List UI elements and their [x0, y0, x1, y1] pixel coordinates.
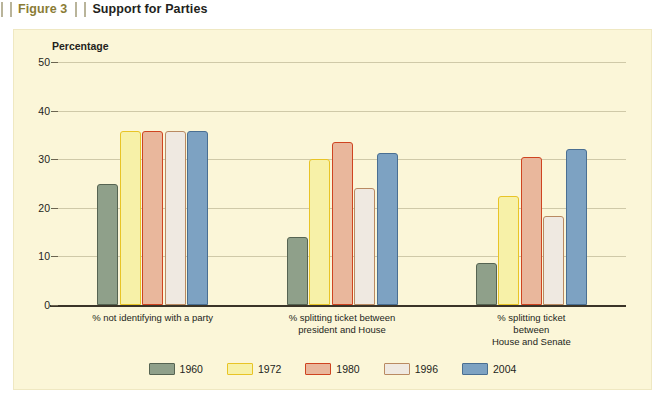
bar-1960-group2: [287, 237, 308, 305]
legend-label-2004: 2004: [493, 363, 516, 375]
bar-1972-group2: [309, 159, 330, 305]
bar-1960-group3: [476, 263, 497, 305]
x-axis-baseline: [50, 305, 626, 307]
y-axis-tick: [51, 159, 58, 160]
legend-item-2004[interactable]: 2004: [462, 363, 516, 375]
gridline: [58, 111, 626, 112]
figure-number: Figure 3: [18, 2, 67, 16]
legend-swatch-1972: [227, 363, 253, 375]
bar-1960-group1: [97, 184, 118, 305]
bar-1980-group2: [332, 142, 353, 305]
bar-1996-group2: [354, 188, 375, 305]
chart-legend: 19601972198019962004: [14, 363, 651, 375]
y-axis-tick: [51, 62, 58, 63]
y-axis-tick: [51, 111, 58, 112]
y-axis-tick-label: 50: [38, 56, 50, 68]
y-axis-tick-label: 0: [44, 299, 50, 311]
y-axis-tick: [51, 256, 58, 257]
legend-label-1996: 1996: [415, 363, 438, 375]
legend-item-1960[interactable]: 1960: [149, 363, 203, 375]
legend-swatch-1996: [384, 363, 410, 375]
x-axis-category-label: % splitting ticket between House and Sen…: [484, 312, 579, 348]
double-rule-icon: [1, 2, 12, 17]
legend-item-1996[interactable]: 1996: [384, 363, 438, 375]
bar-2004-group2: [377, 153, 398, 305]
bar-1972-group1: [120, 131, 141, 305]
figure-title: Support for Parties: [92, 2, 207, 16]
y-axis-tick-label: 30: [38, 153, 50, 165]
chart-panel: Percentage 01020304050% not identifying …: [14, 30, 651, 389]
y-axis-tick-label: 10: [38, 250, 50, 262]
plot-area: 01020304050% not identifying with a part…: [58, 62, 626, 305]
legend-label-1980: 1980: [336, 363, 359, 375]
double-rule-icon-2: [75, 2, 86, 17]
y-axis-tick-label: 40: [38, 105, 50, 117]
y-axis-title: Percentage: [52, 40, 109, 52]
legend-item-1980[interactable]: 1980: [305, 363, 359, 375]
y-axis-tick-label: 20: [38, 202, 50, 214]
y-axis-tick: [51, 305, 58, 306]
bar-1996-group1: [165, 131, 186, 305]
x-axis-category-label: % splitting ticket between president and…: [289, 312, 396, 336]
legend-item-1972[interactable]: 1972: [227, 363, 281, 375]
bar-1996-group3: [543, 216, 564, 305]
figure-container: Figure 3 Support for Parties Percentage …: [0, 0, 661, 401]
x-axis-category-label: % not identifying with a party: [92, 312, 213, 324]
bar-2004-group3: [566, 149, 587, 305]
legend-swatch-2004: [462, 363, 488, 375]
bar-1980-group1: [142, 131, 163, 305]
bar-1980-group3: [521, 157, 542, 305]
legend-label-1960: 1960: [180, 363, 203, 375]
legend-swatch-1980: [305, 363, 331, 375]
legend-swatch-1960: [149, 363, 175, 375]
figure-header: Figure 3 Support for Parties: [0, 0, 661, 18]
bar-2004-group1: [187, 131, 208, 305]
bar-1972-group3: [498, 196, 519, 305]
legend-label-1972: 1972: [258, 363, 281, 375]
y-axis-tick: [51, 208, 58, 209]
gridline: [58, 62, 626, 63]
